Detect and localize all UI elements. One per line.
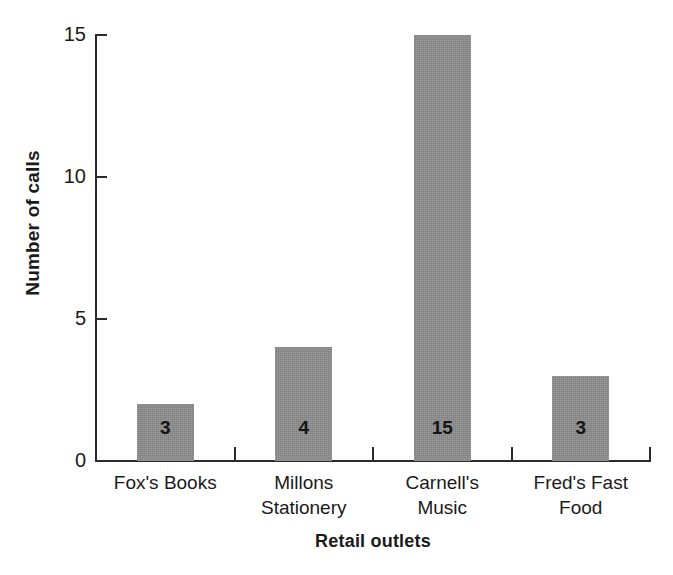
y-axis-tick-label: 15	[30, 24, 86, 44]
y-axis-tick-label: 10	[30, 166, 86, 186]
x-axis-category-label-line: Millons	[235, 470, 374, 495]
bar: 3	[552, 376, 609, 461]
x-axis-category-label-line: Fox's Books	[96, 470, 235, 495]
bar-chart: Number of calls Retail outlets 051015 34…	[0, 0, 673, 575]
x-axis-category-label: MillonsStationery	[235, 470, 374, 520]
bar-value-label: 3	[137, 417, 194, 439]
bar: 15	[414, 35, 471, 461]
bar-value-label: 3	[552, 417, 609, 439]
bar: 3	[137, 404, 194, 461]
x-axis-category-label-line: Food	[512, 495, 651, 520]
x-axis-category-label: Carnell'sMusic	[373, 470, 512, 520]
y-axis-tick-label-text: 15	[40, 24, 86, 44]
y-axis-tick-label-text: 0	[40, 450, 86, 470]
x-axis-title: Retail outlets	[96, 531, 650, 552]
bar-value-label: 4	[275, 417, 332, 439]
x-axis-category-label-line: Music	[373, 495, 512, 520]
x-axis-category-label: Fred's FastFood	[512, 470, 651, 520]
x-axis-category-label-line: Stationery	[235, 495, 374, 520]
x-axis-category-label-line: Carnell's	[373, 470, 512, 495]
y-axis-tick-label: 0	[30, 450, 86, 470]
y-axis-tick-label-text: 5	[40, 308, 86, 328]
y-axis-title: Number of calls	[22, 108, 44, 338]
x-axis-category-label: Fox's Books	[96, 470, 235, 495]
bar-value-label: 15	[414, 417, 471, 439]
y-axis-tick-label: 5	[30, 308, 86, 328]
y-axis-tick-label-text: 10	[40, 166, 86, 186]
x-axis-category-label-line: Fred's Fast	[512, 470, 651, 495]
plot-area: 34153	[96, 35, 650, 461]
bar: 4	[275, 347, 332, 461]
